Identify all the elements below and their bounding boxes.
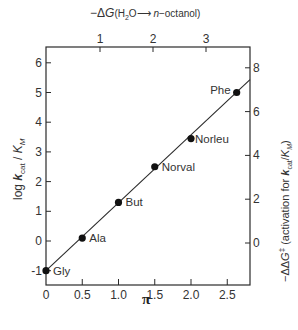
y-tick-label: 2 <box>35 175 42 189</box>
top-tick-label: 2 <box>150 32 157 46</box>
y-tick-label: 5 <box>35 86 42 100</box>
top-axis-title: −ΔG(H2O⟶ n−octanol) <box>90 6 200 21</box>
data-point-norleu <box>187 135 194 142</box>
y-tick-label: 0 <box>35 234 42 248</box>
y-axis-label: log kcat / KM <box>11 138 27 200</box>
svg-text:log kcat / KM: log kcat / KM <box>11 138 27 200</box>
data-point-gly <box>42 267 49 274</box>
data-points: GlyAlaButNorvalNorleuPhe <box>42 84 240 277</box>
x-tick-label: 0 <box>43 288 50 302</box>
point-label: Phe <box>210 84 230 96</box>
point-label: Ala <box>89 232 106 244</box>
x-tick-label: 1.0 <box>110 288 127 302</box>
y-tick-label: -1 <box>31 264 42 278</box>
x-tick-label: 2.0 <box>183 288 200 302</box>
regression-line <box>46 80 250 271</box>
y-tick-label: 3 <box>35 145 42 159</box>
data-point-norval <box>151 163 158 170</box>
data-point-phe <box>233 89 240 96</box>
point-label: Norval <box>162 161 195 173</box>
chart: −ΔG(H2O⟶ n−octanol) 00.51.01.52.02.5-101… <box>0 0 298 330</box>
point-label: Norleu <box>195 133 229 145</box>
axis-tick-labels: 00.51.01.52.02.5-1012345612302468 <box>31 32 260 302</box>
right-tick-label: 8 <box>253 61 260 75</box>
top-tick-label: 3 <box>203 32 210 46</box>
top-tick-label: 1 <box>97 32 104 46</box>
svg-text:−ΔG(H2O⟶ n−octanol): −ΔG(H2O⟶ n−octanol) <box>90 6 200 21</box>
right-tick-label: 0 <box>253 236 260 250</box>
x-axis-label: π <box>142 291 151 307</box>
x-tick-label: 0.5 <box>74 288 91 302</box>
point-label: Gly <box>53 265 71 277</box>
data-point-but <box>115 199 122 206</box>
data-point-ala <box>79 234 86 241</box>
right-tick-label: 4 <box>253 148 260 162</box>
x-tick-label: 2.5 <box>219 288 236 302</box>
right-tick-label: 6 <box>253 105 260 119</box>
point-label: But <box>126 196 144 208</box>
y-tick-label: 4 <box>35 115 42 129</box>
right-tick-label: 2 <box>253 192 260 206</box>
y-tick-label: 6 <box>35 56 42 70</box>
svg-text:−ΔΔG‡ (activation for kcat/KM): −ΔΔG‡ (activation for kcat/KM) <box>277 140 293 282</box>
y-tick-label: 1 <box>35 204 42 218</box>
right-y-axis-label: −ΔΔG‡ (activation for kcat/KM) <box>277 140 293 282</box>
